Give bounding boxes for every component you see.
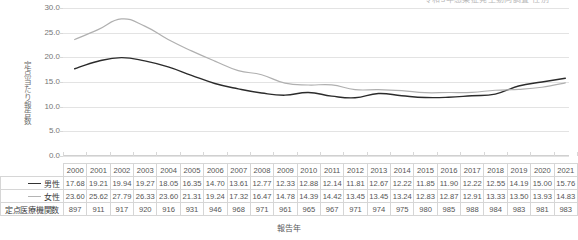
- table-cell: 968: [227, 203, 250, 216]
- table-cell: 971: [250, 203, 273, 216]
- table-header-year: 2003: [134, 164, 157, 177]
- table-row-label: 女性: [1, 190, 64, 203]
- y-tick-label: 10.0: [44, 103, 60, 111]
- y-tick-label: 20.0: [44, 53, 60, 61]
- table-cell: 19.21: [87, 177, 110, 190]
- data-table-wrap: 2000200120022003200420052006200720082009…: [0, 163, 577, 216]
- y-tick-label: 30.0: [44, 4, 60, 12]
- table-cell: 26.33: [134, 190, 157, 203]
- series-line-female: [75, 19, 566, 93]
- y-tick-mark: [59, 156, 63, 157]
- table-cell: 23.60: [157, 190, 180, 203]
- table-header-year: 2013: [367, 164, 390, 177]
- table-header-year: 2020: [531, 164, 554, 177]
- table-row-label: 定点医療機関数: [1, 203, 64, 216]
- table-cell: 988: [461, 203, 484, 216]
- table-header-year: 2015: [414, 164, 437, 177]
- table-cell: 17.68: [64, 177, 87, 190]
- table-cell: 12.83: [414, 190, 437, 203]
- table-cell: 946: [204, 203, 227, 216]
- table-row: 定点医療機関数897911917920916931946968971961965…: [1, 203, 578, 216]
- table-header-row: 2000200120022003200420052006200720082009…: [1, 164, 578, 177]
- table-cell: 23.60: [64, 190, 87, 203]
- y-axis-title: 定点当たり報告数: [17, 50, 31, 136]
- table-cell: 14.39: [297, 190, 320, 203]
- table-row: 女性23.6025.6227.7926.3323.6021.3119.2417.…: [1, 190, 578, 203]
- y-tick-label: 25.0: [44, 29, 60, 37]
- table-cell: 14.19: [507, 177, 530, 190]
- chart-series-svg: [63, 8, 569, 156]
- table-cell: 980: [414, 203, 437, 216]
- table-cell: 13.50: [507, 190, 530, 203]
- table-row-label-text: 女性: [44, 193, 60, 202]
- table-cell: 897: [64, 203, 87, 216]
- table-row-label: 男性: [1, 177, 64, 190]
- table-cell: 25.62: [87, 190, 110, 203]
- table-cell: 19.27: [134, 177, 157, 190]
- table-header-year: 2016: [437, 164, 460, 177]
- gridline: [63, 156, 569, 157]
- legend-line-icon: [28, 183, 41, 184]
- table-header-year: 2006: [204, 164, 227, 177]
- table-cell: 984: [484, 203, 507, 216]
- table-header-year: 2018: [484, 164, 507, 177]
- table-row: 男性17.6819.2119.9419.2718.0516.3514.7013.…: [1, 177, 578, 190]
- table-cell: 917: [110, 203, 133, 216]
- table-cell: 974: [367, 203, 390, 216]
- table-cell: 911: [87, 203, 110, 216]
- table-cell: 14.42: [320, 190, 343, 203]
- table-corner-cell: [1, 164, 64, 177]
- table-cell: 985: [437, 203, 460, 216]
- table-cell: 12.67: [367, 177, 390, 190]
- table-cell: 14.83: [554, 190, 577, 203]
- table-cell: 13.93: [531, 190, 554, 203]
- table-header-year: 2005: [180, 164, 203, 177]
- table-cell: 14.78: [274, 190, 297, 203]
- series-line-male: [75, 58, 566, 98]
- table-cell: 13.61: [227, 177, 250, 190]
- table-cell: 12.55: [484, 177, 507, 190]
- table-cell: 916: [157, 203, 180, 216]
- table-header-year: 2014: [391, 164, 414, 177]
- table-cell: 12.77: [250, 177, 273, 190]
- table-cell: 21.31: [180, 190, 203, 203]
- line-chart: 定点当たり報告数 0.05.010.015.020.025.030.0: [0, 8, 577, 163]
- table-header-year: 2011: [320, 164, 343, 177]
- table-cell: 14.70: [204, 177, 227, 190]
- cut-off-header-text: 令和3年感染症発生動向調査 性別: [424, 0, 549, 4]
- table-cell: 11.85: [414, 177, 437, 190]
- table-cell: 961: [274, 203, 297, 216]
- table-cell: 12.91: [461, 190, 484, 203]
- legend-line-icon: [28, 196, 41, 197]
- table-cell: 12.33: [274, 177, 297, 190]
- table-cell: 15.76: [554, 177, 577, 190]
- table-cell: 11.90: [437, 177, 460, 190]
- table-cell: 983: [554, 203, 577, 216]
- table-cell: 13.33: [484, 190, 507, 203]
- table-header-year: 2019: [507, 164, 530, 177]
- table-header-year: 2004: [157, 164, 180, 177]
- table-cell: 12.14: [320, 177, 343, 190]
- table-header-year: 2010: [297, 164, 320, 177]
- table-header-year: 2017: [461, 164, 484, 177]
- table-cell: 12.88: [297, 177, 320, 190]
- table-cell: 13.45: [344, 190, 367, 203]
- table-cell: 27.79: [110, 190, 133, 203]
- table-cell: 15.00: [531, 177, 554, 190]
- table-header-year: 2007: [227, 164, 250, 177]
- data-table: 2000200120022003200420052006200720082009…: [0, 163, 578, 216]
- table-cell: 13.45: [367, 190, 390, 203]
- table-header-year: 2008: [250, 164, 273, 177]
- table-cell: 18.05: [157, 177, 180, 190]
- table-cell: 19.94: [110, 177, 133, 190]
- table-header-year: 2000: [64, 164, 87, 177]
- table-header-year: 2001: [87, 164, 110, 177]
- x-axis-title: 報告年: [0, 222, 577, 233]
- table-row-label-text: 定点医療機関数: [5, 206, 59, 215]
- table-cell: 967: [320, 203, 343, 216]
- table-cell: 12.22: [461, 177, 484, 190]
- table-cell: 983: [507, 203, 530, 216]
- table-cell: 16.47: [250, 190, 273, 203]
- table-header-year: 2009: [274, 164, 297, 177]
